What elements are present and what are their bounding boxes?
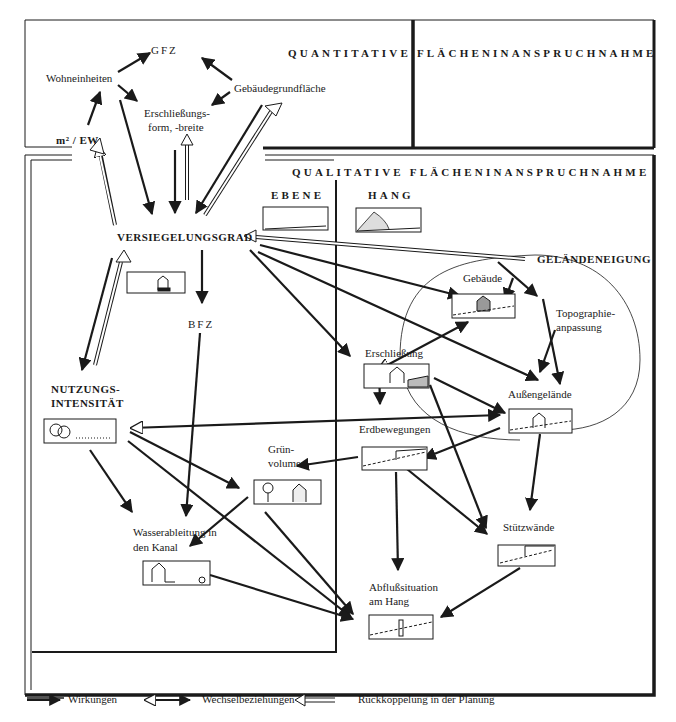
node-erschliessungsform-1: Erschließungs-: [144, 107, 210, 120]
node-gelaendeneigung: GELÄNDENEIGUNG: [537, 253, 651, 266]
node-topographie-1: Topographie-: [556, 307, 615, 320]
ebene-label: EBENE: [271, 189, 324, 202]
qualitative-box: [25, 20, 654, 695]
aussengelaende-illustration: [509, 409, 572, 433]
node-wasser-2: den Kanal: [133, 541, 178, 554]
legend-rueckkoppelung: Rückkoppelung in der Planung: [358, 693, 495, 705]
node-gruen-2: volumen: [268, 457, 307, 470]
node-wasser-1: Wasserableitung in: [133, 526, 217, 539]
node-gebaeude: Gebäude: [463, 272, 502, 285]
node-versiegelungsgrad: VERSIEGELUNGSGRAD: [117, 231, 253, 244]
node-m2-ew: m² / EW: [56, 134, 99, 147]
nutzung-illustration: [44, 419, 116, 443]
gruenvolumen-illustration: [254, 480, 321, 504]
node-aussengelaende: Außengelände: [508, 388, 572, 401]
hang-label: HANG: [368, 189, 414, 202]
legend-wirkungen: Wirkungen: [68, 693, 117, 705]
wasser-illustration: [143, 561, 210, 585]
qualitative-title: QUALITATIVE FLÄCHENINANSPRUCHNAHME: [292, 166, 649, 179]
node-erdbewegungen: Erdbewegungen: [359, 423, 430, 436]
node-gfz: GFZ: [151, 44, 178, 57]
node-bfz: BFZ: [188, 318, 214, 331]
node-nutzungsintensitaet-2: INTENSITÄT: [51, 397, 124, 410]
node-erschliessungsform-2: form, -breite: [148, 121, 204, 134]
node-abfluss-2: am Hang: [369, 595, 409, 608]
abfluss-illustration: [369, 615, 433, 639]
node-gruen-1: Grün-: [268, 443, 294, 456]
diagram-canvas: [0, 0, 676, 722]
node-erschliessung: Erschließung: [365, 347, 423, 360]
node-wohneinheiten: Wohneinheiten: [46, 72, 112, 85]
quantitative-title: QUANTITATIVE FLÄCHENINANSPRUCHNAHME: [288, 47, 657, 60]
stuetzwaende-illustration: [498, 545, 555, 566]
node-topographie-2: anpassung: [556, 321, 602, 334]
legend-wechselbeziehungen: Wechselbeziehungen: [202, 693, 295, 705]
versiegelung-illustration: [127, 272, 185, 293]
node-nutzungsintensitaet-1: NUTZUNGS-: [51, 383, 120, 396]
node-stuetzwaende: Stützwände: [503, 521, 554, 534]
node-abfluss-1: Abflußsituation: [369, 581, 438, 594]
node-gebaeudegrundflaeche: Gebäudegrundfläche: [234, 82, 326, 95]
